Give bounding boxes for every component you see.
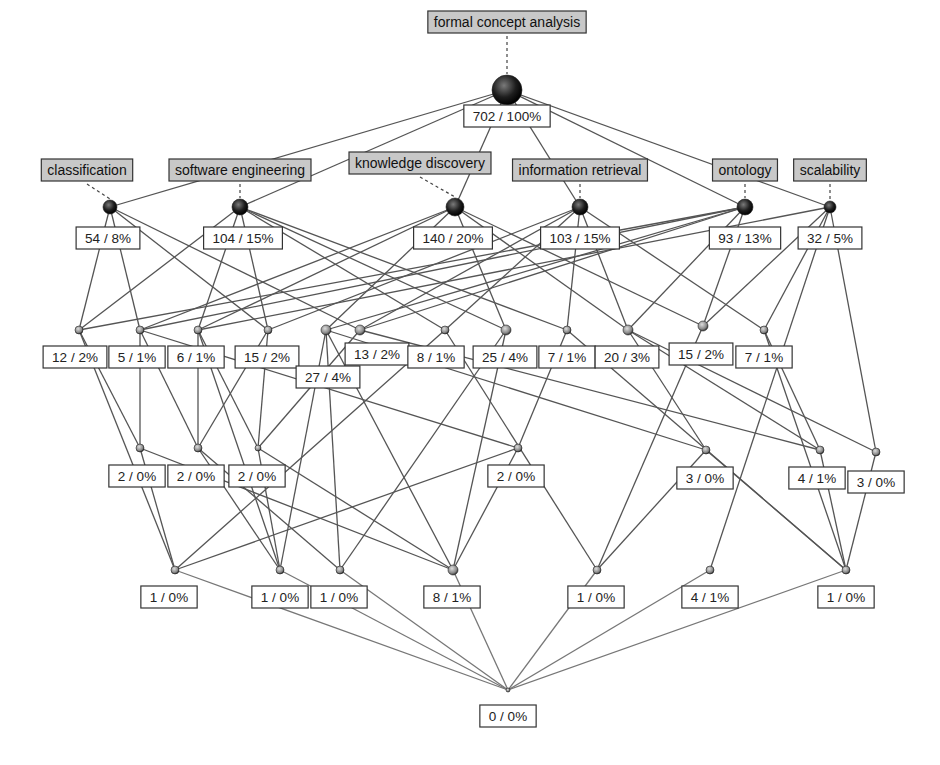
attribute-label-text: ontology — [719, 162, 772, 178]
extent-label-t2: 2 / 0% — [168, 465, 224, 487]
extent-label-text: 1 / 0% — [827, 590, 865, 605]
concept-lattice: formal concept analysis702 / 100%classif… — [0, 0, 940, 765]
extent-label-text: 54 / 8% — [85, 231, 131, 246]
extent-label-c1: 54 / 8% — [76, 227, 140, 249]
extent-label-text: 12 / 2% — [52, 350, 98, 365]
concept-node-m6[interactable] — [355, 325, 365, 335]
concept-node-b5[interactable] — [593, 566, 601, 574]
concept-node-m11[interactable] — [698, 321, 708, 331]
attribute-label-c2[interactable]: software engineering — [169, 159, 311, 181]
concept-node-b1[interactable] — [171, 566, 179, 574]
lattice-labels: formal concept analysis702 / 100%classif… — [41, 11, 904, 727]
attribute-label-c3[interactable]: knowledge discovery — [349, 152, 491, 174]
extent-label-bottom: 0 / 0% — [480, 705, 536, 727]
extent-label-text: 8 / 1% — [417, 350, 455, 365]
concept-node-m1[interactable] — [75, 326, 83, 334]
concept-node-t7[interactable] — [872, 448, 880, 456]
concept-node-m5[interactable] — [321, 325, 331, 335]
concept-node-c4[interactable] — [572, 199, 588, 215]
extent-label-text: 8 / 1% — [433, 590, 471, 605]
lattice-edge-c1-m2 — [110, 207, 140, 330]
lattice-edge-c6-b6 — [710, 207, 830, 570]
concept-node-t5[interactable] — [702, 446, 710, 454]
attribute-leader-c1 — [87, 184, 110, 199]
concept-node-m8[interactable] — [501, 325, 511, 335]
concept-node-c2[interactable] — [232, 199, 248, 215]
concept-node-m12[interactable] — [760, 326, 768, 334]
extent-label-text: 1 / 0% — [320, 590, 358, 605]
concept-node-t1[interactable] — [136, 444, 144, 452]
concept-node-top[interactable] — [492, 75, 522, 105]
extent-label-text: 27 / 4% — [305, 370, 351, 385]
concept-node-c6[interactable] — [824, 201, 836, 213]
concept-node-c5[interactable] — [737, 199, 753, 215]
concept-node-m2[interactable] — [136, 326, 144, 334]
lattice-edge-c5-m2 — [140, 207, 745, 330]
extent-label-text: 7 / 1% — [548, 350, 586, 365]
attribute-label-top[interactable]: formal concept analysis — [428, 11, 586, 33]
lattice-edge-c4-m6 — [360, 207, 580, 330]
extent-label-text: 4 / 1% — [691, 590, 729, 605]
concept-node-m9[interactable] — [563, 326, 571, 334]
extent-label-m4: 15 / 2% — [235, 346, 299, 368]
lattice-edge-c1-m6 — [110, 207, 360, 330]
concept-node-m3[interactable] — [194, 326, 202, 334]
lattice-edge-c5-m5 — [326, 207, 745, 330]
extent-label-text: 20 / 3% — [604, 350, 650, 365]
lattice-edge-c6-m3 — [198, 207, 830, 330]
concept-node-b6[interactable] — [706, 566, 714, 574]
extent-label-t6: 4 / 1% — [789, 467, 845, 489]
extent-label-text: 6 / 1% — [177, 350, 215, 365]
concept-node-bottom[interactable] — [506, 688, 510, 692]
extent-label-t5: 3 / 0% — [677, 467, 733, 489]
attribute-label-c1[interactable]: classification — [41, 159, 132, 181]
extent-label-text: 2 / 0% — [118, 469, 156, 484]
extent-label-b4: 8 / 1% — [424, 586, 480, 608]
extent-label-m6: 13 / 2% — [345, 343, 409, 365]
extent-label-m5: 27 / 4% — [296, 366, 360, 388]
lattice-edge-c6-m12 — [764, 207, 830, 330]
extent-label-text: 702 / 100% — [473, 109, 541, 124]
extent-label-text: 3 / 0% — [857, 475, 895, 490]
attribute-label-text: classification — [47, 162, 126, 178]
extent-label-b7: 1 / 0% — [818, 586, 874, 608]
lattice-edge-top-c6 — [507, 90, 830, 207]
attribute-label-text: formal concept analysis — [434, 14, 580, 30]
attribute-label-text: software engineering — [175, 162, 305, 178]
concept-node-b2[interactable] — [276, 566, 284, 574]
extent-label-b3: 1 / 0% — [311, 586, 367, 608]
concept-node-t4[interactable] — [514, 444, 522, 452]
extent-label-text: 140 / 20% — [423, 231, 484, 246]
concept-node-m10[interactable] — [623, 325, 633, 335]
extent-label-m10: 20 / 3% — [595, 346, 659, 368]
concept-node-b3[interactable] — [336, 566, 344, 574]
attribute-label-c6[interactable]: scalability — [794, 159, 867, 181]
concept-node-c3[interactable] — [446, 198, 464, 216]
extent-label-text: 1 / 0% — [261, 590, 299, 605]
extent-label-m12: 7 / 1% — [736, 346, 792, 368]
attribute-label-c5[interactable]: ontology — [713, 159, 778, 181]
attribute-label-text: scalability — [800, 162, 861, 178]
concept-node-m4[interactable] — [264, 326, 272, 334]
concept-node-t3[interactable] — [255, 445, 261, 451]
extent-label-text: 3 / 0% — [686, 471, 724, 486]
attribute-label-c4[interactable]: information retrieval — [513, 159, 648, 181]
concept-node-m7[interactable] — [441, 326, 449, 334]
extent-label-c5: 93 / 13% — [709, 227, 780, 249]
concept-node-t6[interactable] — [816, 446, 824, 454]
extent-label-text: 15 / 2% — [244, 350, 290, 365]
attribute-leader-c3 — [420, 177, 455, 197]
concept-node-t2[interactable] — [194, 444, 202, 452]
extent-label-text: 0 / 0% — [489, 709, 527, 724]
extent-label-t7: 3 / 0% — [848, 471, 904, 493]
extent-label-text: 103 / 15% — [550, 231, 611, 246]
extent-label-t1: 2 / 0% — [109, 465, 165, 487]
extent-label-t4: 2 / 0% — [488, 465, 544, 487]
concept-node-c1[interactable] — [103, 200, 117, 214]
concept-node-b7[interactable] — [842, 566, 850, 574]
lattice-edge-top-c1 — [110, 90, 507, 207]
extent-label-text: 25 / 4% — [482, 350, 528, 365]
extent-label-m11: 15 / 2% — [669, 343, 733, 365]
concept-node-b4[interactable] — [448, 565, 458, 575]
extent-label-text: 15 / 2% — [678, 347, 724, 362]
